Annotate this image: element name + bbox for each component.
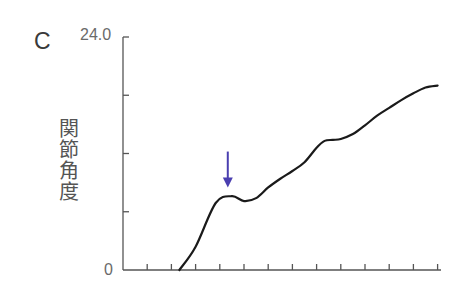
joint-angle-curve [179,86,437,270]
arrow-down-icon [223,177,233,187]
axes [123,37,441,270]
line-chart [0,0,473,298]
arrow-annotation [223,152,233,188]
